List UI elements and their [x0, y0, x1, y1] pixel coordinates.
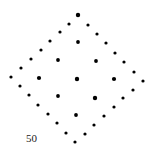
inner-dot: [75, 77, 79, 81]
outer-dot: [55, 121, 58, 124]
outer-dot: [92, 123, 95, 126]
outer-dot: [112, 105, 115, 108]
outer-dot: [104, 41, 107, 44]
outer-dot: [46, 112, 49, 115]
outer-dot: [29, 57, 32, 60]
outer-dot: [131, 88, 134, 91]
outer-dot: [122, 60, 125, 63]
outer-dot: [39, 48, 42, 51]
outer-dot: [73, 140, 76, 143]
outer-dot: [64, 131, 67, 134]
outer-dot: [102, 114, 105, 117]
outer-dot: [141, 79, 144, 82]
outer-dot: [67, 22, 70, 25]
inner-dot: [56, 94, 60, 98]
figure-label: 50: [26, 133, 37, 144]
inner-dot: [112, 77, 116, 81]
outer-dot: [95, 32, 98, 35]
inner-dot: [76, 40, 80, 44]
outer-dot: [19, 66, 22, 69]
outer-dot: [18, 84, 21, 87]
outer-dot: [83, 132, 86, 135]
outer-dot: [113, 51, 116, 54]
outer-dot: [86, 23, 89, 26]
outer-dot: [76, 13, 80, 17]
dot-lattice-diagram: [0, 0, 155, 156]
outer-dot: [27, 93, 30, 96]
inner-dot: [94, 59, 98, 63]
outer-dot: [48, 39, 51, 42]
outer-dot: [58, 30, 61, 33]
inner-dot: [93, 96, 97, 100]
outer-dot: [121, 96, 124, 99]
inner-dot: [56, 58, 60, 62]
outer-dot: [132, 70, 135, 73]
outer-dot: [9, 75, 12, 78]
inner-dot: [37, 76, 41, 80]
inner-dot: [74, 113, 78, 117]
outer-dot: [36, 103, 39, 106]
